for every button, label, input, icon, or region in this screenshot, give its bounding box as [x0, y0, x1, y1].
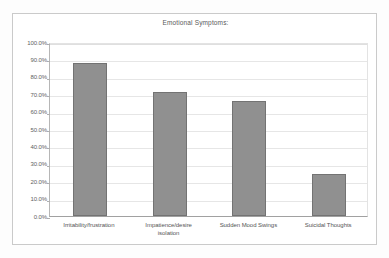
y-axis-label: 50.0% [13, 127, 47, 133]
x-axis-category-label: Irritability/frustration [49, 222, 129, 230]
y-axis-tick-30 [47, 166, 50, 167]
y-axis-label: 60.0% [13, 109, 47, 115]
y-axis-tick-60 [47, 114, 50, 115]
y-axis-label: 100.0% [13, 40, 47, 46]
x-axis-category-label-line: Impatience/desire [129, 222, 209, 230]
x-axis-category-label-line: Sudden Mood Swings [209, 222, 289, 230]
y-axis-label: 70.0% [13, 92, 47, 98]
x-axis-category-label: Impatience/desireisolation [129, 222, 209, 237]
gridline-100 [50, 44, 367, 45]
y-axis-label: 30.0% [13, 161, 47, 167]
y-axis-label: 0.0% [13, 214, 47, 220]
plot-area [49, 43, 368, 217]
y-axis-tick-80 [47, 79, 50, 80]
x-axis-category-label-line: Suicidal Thoughts [288, 222, 368, 230]
y-axis-tick-50 [47, 131, 50, 132]
y-axis-tick-90 [47, 61, 50, 62]
bar [73, 63, 107, 216]
y-axis-label: 10.0% [13, 196, 47, 202]
bar [232, 101, 266, 216]
x-axis-category-label: Suicidal Thoughts [288, 222, 368, 230]
y-axis-tick-70 [47, 96, 50, 97]
chart-title: Emotional Symptoms: [13, 19, 378, 26]
y-axis-tick-20 [47, 183, 50, 184]
y-axis-tick-40 [47, 148, 50, 149]
y-axis-label: 40.0% [13, 144, 47, 150]
chart-screenshot: Emotional Symptoms: 100.0%90.0%80.0%70.0… [0, 0, 389, 258]
chart-card: Emotional Symptoms: 100.0%90.0%80.0%70.0… [12, 13, 377, 245]
y-axis-tick-10 [47, 201, 50, 202]
x-axis-category-label-line: Irritability/frustration [49, 222, 129, 230]
gridline-90 [50, 61, 367, 62]
y-axis-label: 90.0% [13, 57, 47, 63]
y-axis-tick-100 [47, 44, 50, 45]
x-axis-category-label: Sudden Mood Swings [209, 222, 289, 230]
x-axis-category-label-line: isolation [129, 230, 209, 238]
y-axis-tick-0 [47, 218, 50, 219]
y-axis-label: 20.0% [13, 179, 47, 185]
y-axis-label: 80.0% [13, 74, 47, 80]
bar [153, 92, 187, 216]
bar [312, 174, 346, 216]
